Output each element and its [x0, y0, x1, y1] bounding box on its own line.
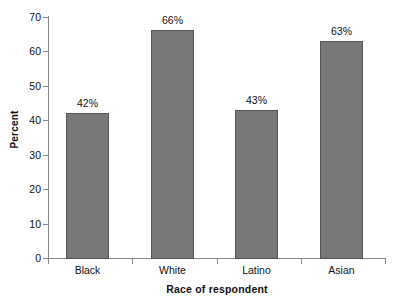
y-tick-mark — [43, 17, 48, 18]
x-category-label-black: Black — [66, 265, 109, 276]
x-tick-mark — [48, 259, 49, 264]
y-tick-label: 10 — [19, 219, 41, 230]
y-tick-mark — [43, 224, 48, 225]
y-tick-mark — [43, 189, 48, 190]
bar-black — [66, 113, 109, 259]
bar-asian — [320, 41, 363, 259]
y-tick-mark — [43, 120, 48, 121]
y-tick-label: 40 — [19, 115, 41, 126]
y-axis-tick-labels: 70 60 50 40 30 20 10 0 — [19, 0, 41, 301]
bar-value-asian: 63% — [320, 26, 363, 37]
y-tick-mark — [43, 86, 48, 87]
bar-value-white: 66% — [151, 15, 194, 26]
y-tick-label: 30 — [19, 150, 41, 161]
bar-chart: Percent 70 60 50 40 30 20 10 0 42% 66% 4… — [0, 0, 406, 301]
y-tick-label: 20 — [19, 184, 41, 195]
y-axis-line — [48, 16, 49, 259]
bar-value-latino: 43% — [235, 95, 278, 106]
bar-latino — [235, 110, 278, 259]
y-tick-mark — [43, 51, 48, 52]
bar-value-black: 42% — [66, 98, 109, 109]
y-tick-label: 0 — [19, 253, 41, 264]
bar-white — [151, 30, 194, 259]
x-category-label-white: White — [151, 265, 194, 276]
x-tick-mark — [217, 259, 218, 264]
y-tick-label: 60 — [19, 46, 41, 57]
x-category-label-latino: Latino — [235, 265, 278, 276]
y-axis-title: Percent — [9, 95, 20, 165]
x-tick-mark — [385, 259, 386, 264]
y-tick-label: 70 — [19, 12, 41, 23]
x-tick-mark — [132, 259, 133, 264]
x-axis-title: Race of respondent — [48, 283, 386, 295]
y-tick-mark — [43, 155, 48, 156]
x-category-label-asian: Asian — [320, 265, 363, 276]
x-tick-mark — [301, 259, 302, 264]
y-tick-label: 50 — [19, 81, 41, 92]
